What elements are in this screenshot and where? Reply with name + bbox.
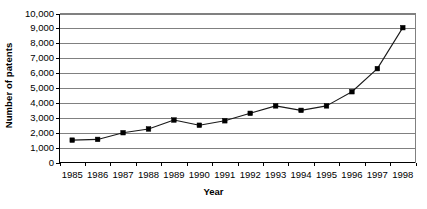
x-axis-tick-label: 1989 [163, 170, 184, 180]
data-point-marker [324, 104, 329, 109]
x-axis-tick-label: 1993 [265, 170, 286, 180]
x-axis-tick-label: 1988 [138, 170, 159, 180]
gridlines [60, 15, 416, 149]
x-axis-tick-label: 1997 [367, 170, 388, 180]
x-axis-title: Year [0, 186, 427, 197]
data-point-marker [95, 137, 100, 142]
series-line-number-of-patents [72, 28, 403, 140]
x-axis-tick-label: 1996 [341, 170, 362, 180]
data-point-marker [70, 138, 75, 143]
x-axis-tick-label: 1986 [87, 170, 108, 180]
x-axis-tick-label: 1987 [112, 170, 133, 180]
x-axis-tick-label: 1985 [62, 170, 83, 180]
x-axis-title-text: Year [203, 186, 223, 197]
axis-tickmarks [56, 15, 417, 167]
data-point-marker [350, 89, 355, 94]
x-axis-tick-label: 1995 [316, 170, 337, 180]
data-point-marker [273, 104, 278, 109]
x-axis-tick-labels: 1985198619871988198919901991199219931994… [0, 168, 427, 184]
patents-line-chart: Number of patents 01,0002,0003,0004,0005… [0, 0, 427, 209]
data-point-marker [400, 25, 405, 30]
data-point-marker [299, 108, 304, 113]
data-point-marker [375, 66, 380, 71]
data-point-marker [222, 118, 227, 123]
data-point-marker [248, 111, 253, 116]
data-point-marker [146, 127, 151, 132]
data-point-marker [172, 118, 177, 123]
x-axis-tick-label: 1998 [392, 170, 413, 180]
x-axis-tick-label: 1991 [214, 170, 235, 180]
x-axis-tick-label: 1994 [290, 170, 311, 180]
x-axis-tick-label: 1990 [189, 170, 210, 180]
x-axis-tick-label: 1992 [240, 170, 261, 180]
series-markers [70, 25, 405, 142]
data-point-marker [197, 123, 202, 128]
data-point-marker [121, 130, 126, 135]
